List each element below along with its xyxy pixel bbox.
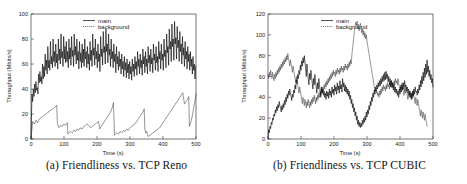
x-tick-label: 100 — [296, 141, 305, 147]
x-tick-label: 300 — [125, 141, 134, 147]
x-tick-label: 500 — [428, 141, 437, 147]
plot-area-b: 020406080100120 0100200300400500 Time (s… — [233, 0, 466, 160]
figure-panel-b: 020406080100120 0100200300400500 Time (s… — [233, 0, 466, 184]
figure-row: 020406080100 0100200300400500 Time (s) T… — [0, 0, 467, 184]
y-tick-label: 100 — [19, 11, 28, 17]
figure-caption-a: (a) Friendliness vs. TCP Reno — [0, 159, 233, 171]
figure-caption-b: (b) Friendliness vs. TCP CUBIC — [233, 159, 466, 171]
y-tick-label: 60 — [22, 61, 28, 67]
x-tick-label: 400 — [158, 141, 167, 147]
x-tick-label: 200 — [329, 141, 338, 147]
figure-panel-a: 020406080100 0100200300400500 Time (s) T… — [0, 0, 233, 184]
chart-a: 020406080100 0100200300400500 Time (s) T… — [0, 0, 233, 160]
chart-b: 020406080100120 0100200300400500 Time (s… — [233, 0, 467, 160]
chart-b-series-background — [268, 21, 427, 126]
y-tick-label: 0 — [262, 136, 265, 142]
x-tick-label: 300 — [362, 141, 371, 147]
y-tick-label: 80 — [259, 53, 265, 59]
chart-a-series-background — [31, 93, 196, 139]
y-tick-label: 80 — [22, 36, 28, 42]
chart-b-axes — [268, 14, 433, 139]
y-tick-label: 60 — [259, 74, 265, 80]
chart-a-y-axis-title: Throughput (Mbits/s) — [6, 49, 12, 103]
chart-b-x-axis-title: Time (s) — [339, 150, 360, 156]
chart-b-y-axis-title: Throughput (Mbits/s) — [241, 49, 247, 103]
chart-a-y-ticks: 020406080100 — [19, 11, 34, 142]
y-tick-label: 20 — [259, 115, 265, 121]
x-tick-label: 200 — [92, 141, 101, 147]
chart-a-series-main — [31, 22, 196, 140]
y-tick-label: 120 — [256, 11, 265, 17]
chart-b-x-ticks: 0100200300400500 — [266, 136, 437, 147]
y-tick-label: 0 — [25, 136, 28, 142]
chart-b-legend: main background — [321, 18, 367, 30]
y-tick-label: 40 — [259, 94, 265, 100]
x-tick-label: 500 — [191, 141, 200, 147]
chart-b-legend-label-background: background — [336, 24, 367, 30]
chart-a-legend-label-background: background — [98, 24, 129, 30]
y-tick-label: 100 — [256, 32, 265, 38]
chart-a-x-axis-title: Time (s) — [102, 150, 123, 156]
x-tick-label: 0 — [266, 141, 269, 147]
chart-a-axes — [31, 14, 196, 139]
x-tick-label: 400 — [395, 141, 404, 147]
chart-a-legend: main background — [83, 18, 129, 30]
chart-a-x-ticks: 0100200300400500 — [29, 136, 200, 147]
plot-area-a: 020406080100 0100200300400500 Time (s) T… — [0, 0, 233, 160]
x-tick-label: 0 — [29, 141, 32, 147]
y-tick-label: 20 — [22, 111, 28, 117]
x-tick-label: 100 — [59, 141, 68, 147]
y-tick-label: 40 — [22, 86, 28, 92]
